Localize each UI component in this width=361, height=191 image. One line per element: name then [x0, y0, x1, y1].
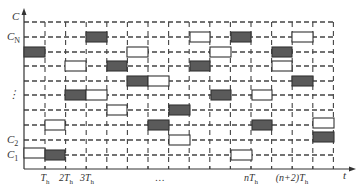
hollow-slot-block — [252, 90, 272, 100]
hollow-slot-block — [107, 105, 127, 115]
filled-slot-block — [45, 150, 65, 160]
filled-slot-block — [65, 90, 86, 100]
hollow-slot-block — [24, 148, 45, 158]
filled-slot-block — [252, 120, 272, 130]
hollow-slot-block — [272, 61, 292, 71]
filled-slot-block — [313, 132, 334, 142]
row-label: CN — [7, 31, 20, 45]
row-label: ⋮ — [8, 89, 19, 100]
diagram-canvas — [0, 0, 361, 191]
filled-slot-block — [24, 47, 45, 57]
x-tick-label: 2Th — [59, 173, 73, 186]
filled-slot-block — [169, 105, 190, 115]
x-axis-label: t — [343, 170, 346, 181]
row-label: C1 — [7, 149, 18, 163]
filled-slot-block — [231, 32, 251, 42]
hollow-slot-block — [65, 61, 86, 71]
x-tick-label: nTh — [244, 173, 258, 186]
time-slot-blocks — [24, 32, 334, 160]
hollow-slot-block — [86, 90, 107, 100]
filled-slot-block — [107, 61, 127, 71]
hollow-slot-block — [127, 47, 148, 57]
hollow-slot-block — [45, 120, 65, 130]
hollow-slot-block — [210, 47, 231, 57]
x-tick-label: … — [156, 173, 165, 183]
filled-slot-block — [86, 32, 107, 42]
hollow-slot-block — [148, 76, 169, 86]
y-arrow-icon — [22, 8, 27, 15]
hollow-slot-block — [292, 32, 313, 42]
y-axis-label: C — [12, 11, 19, 22]
timing-diagram: C t CN⋮C2C1 Th2Th3Th…nTh(n+2)Th — [0, 0, 361, 191]
filled-slot-block — [272, 47, 292, 57]
filled-slot-block — [292, 76, 313, 86]
hollow-slot-block — [313, 118, 334, 128]
hollow-slot-block — [190, 32, 210, 42]
hollow-slot-block — [169, 135, 190, 145]
x-tick-label: 3Th — [80, 173, 94, 186]
x-tick-label: Th — [40, 173, 49, 186]
filled-slot-block — [211, 90, 231, 100]
filled-slot-block — [148, 120, 169, 130]
filled-slot-block — [190, 61, 210, 71]
filled-slot-block — [127, 76, 148, 86]
row-label: C2 — [7, 134, 18, 148]
hollow-slot-block — [231, 150, 252, 160]
x-arrow-icon — [349, 167, 356, 172]
x-tick-label: (n+2)Th — [276, 173, 308, 186]
